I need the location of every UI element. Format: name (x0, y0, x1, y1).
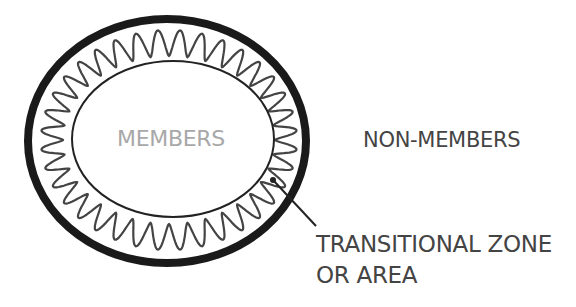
membership-boundary-diagram (0, 0, 576, 307)
transitional-zone-label-line1: TRANSITIONAL ZONE (316, 231, 552, 257)
leader-dot (270, 177, 276, 183)
members-label: MEMBERS (117, 126, 225, 151)
transitional-zone-label-line2: OR AREA (316, 262, 417, 288)
non-members-label: NON-MEMBERS (363, 128, 520, 152)
